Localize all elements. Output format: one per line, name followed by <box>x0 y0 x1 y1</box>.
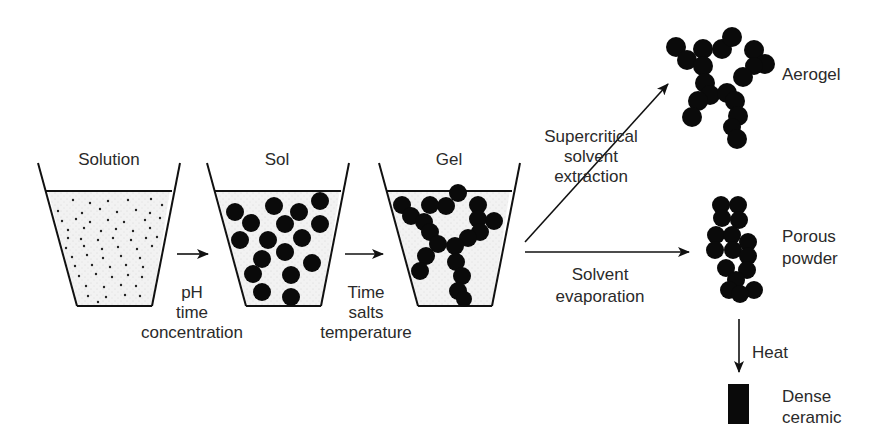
label-gel: Gel <box>436 150 462 170</box>
label-porous: Porous <box>782 227 836 247</box>
label-solution: Solution <box>78 150 139 170</box>
label-concentration: concentration <box>141 323 243 343</box>
label-ph: pH <box>181 283 203 303</box>
porous-powder-cluster <box>706 196 763 303</box>
sol-beaker <box>207 163 349 306</box>
label-time: time <box>176 303 208 323</box>
label-solvent: solvent <box>564 147 618 167</box>
label-evaporation: evaporation <box>556 287 645 307</box>
label-solvent-evap: Solvent <box>572 265 629 285</box>
solution-beaker <box>38 163 180 306</box>
label-heat: Heat <box>752 343 788 363</box>
dense-ceramic-block <box>728 384 749 424</box>
gel-beaker <box>379 163 520 307</box>
label-powder: powder <box>782 249 838 269</box>
label-ceramic: ceramic <box>782 408 842 428</box>
label-dense: Dense <box>782 387 831 407</box>
label-time-2: Time <box>347 283 384 303</box>
label-supercritical: Supercritical <box>544 127 638 147</box>
aerogel-cluster <box>666 27 775 149</box>
diagram-graphics <box>0 0 885 448</box>
label-aerogel: Aerogel <box>782 65 841 85</box>
label-salts: salts <box>349 303 384 323</box>
label-temperature: temperature <box>320 323 412 343</box>
label-extraction: extraction <box>554 167 628 187</box>
label-sol: Sol <box>265 150 290 170</box>
sol-gel-process-diagram: Solution Sol Gel pH time concentration T… <box>0 0 885 448</box>
